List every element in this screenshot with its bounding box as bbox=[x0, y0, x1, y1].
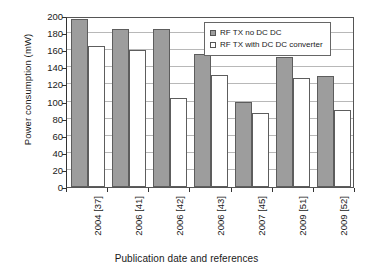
legend-label: RF TX no DC DC bbox=[220, 28, 282, 38]
legend-item: RF TX no DC DC bbox=[210, 27, 323, 39]
bar-series-a bbox=[71, 19, 88, 187]
x-axis-title: Publication date and references bbox=[0, 253, 373, 264]
bar-series-a bbox=[112, 29, 129, 187]
x-tick-mark bbox=[313, 188, 314, 192]
x-tick-mark bbox=[231, 188, 232, 192]
y-tick-label: 40 bbox=[23, 149, 63, 159]
x-tick-mark bbox=[107, 188, 108, 192]
bar-series-b bbox=[129, 50, 146, 187]
y-tick-label: 60 bbox=[23, 132, 63, 142]
bar-series-b bbox=[293, 78, 310, 187]
x-tick-mark bbox=[66, 188, 67, 192]
y-tick-label: 100 bbox=[23, 98, 63, 108]
y-tick-label: 80 bbox=[23, 115, 63, 125]
x-tick-mark bbox=[148, 188, 149, 192]
bar-series-b bbox=[170, 98, 187, 187]
x-tick-label: 2007 [45] bbox=[256, 196, 267, 236]
x-tick-label: 2009 [52] bbox=[338, 196, 349, 236]
legend-item: RF TX with DC DC converter bbox=[210, 39, 323, 51]
bar-series-a bbox=[317, 76, 334, 187]
bar-series-b bbox=[88, 46, 105, 187]
bar-series-a bbox=[194, 54, 211, 187]
bar-group bbox=[108, 18, 149, 187]
chart-legend: RF TX no DC DCRF TX with DC DC converter bbox=[204, 22, 331, 56]
legend-swatch-icon bbox=[210, 30, 216, 36]
x-tick-mark bbox=[354, 188, 355, 192]
bar-series-a bbox=[235, 102, 252, 188]
x-tick-label: 2004 [37] bbox=[92, 196, 103, 236]
y-tick-label: 140 bbox=[23, 63, 63, 73]
x-tick-label: 2006 [43] bbox=[215, 196, 226, 236]
y-tick-label: 200 bbox=[23, 12, 63, 22]
y-tick-label: 0 bbox=[23, 183, 63, 193]
legend-label: RF TX with DC DC converter bbox=[220, 40, 323, 50]
bar-group bbox=[67, 18, 108, 187]
y-tick-label: 20 bbox=[23, 166, 63, 176]
bar-series-a bbox=[153, 29, 170, 187]
x-tick-label: 2006 [42] bbox=[174, 196, 185, 236]
bar-chart-figure: Power consumption (mW) 02040608010012014… bbox=[0, 0, 373, 273]
x-tick-mark bbox=[189, 188, 190, 192]
x-tick-mark bbox=[272, 188, 273, 192]
bar-series-b bbox=[252, 113, 269, 187]
legend-swatch-icon bbox=[210, 42, 216, 48]
bar-group bbox=[149, 18, 190, 187]
y-tick-label: 160 bbox=[23, 46, 63, 56]
bar-series-b bbox=[334, 110, 351, 187]
y-tick-label: 120 bbox=[23, 80, 63, 90]
y-tick-label: 180 bbox=[23, 29, 63, 39]
x-tick-label: 2009 [51] bbox=[297, 196, 308, 236]
bar-series-b bbox=[211, 75, 228, 187]
bar-series-a bbox=[276, 57, 293, 187]
x-tick-label: 2006 [41] bbox=[133, 196, 144, 236]
